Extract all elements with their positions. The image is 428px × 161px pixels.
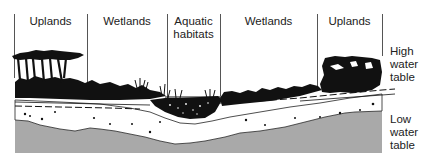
zone-label-aquatic-line2: habitats xyxy=(167,28,220,41)
zone-label-aquatic-line1: Aquatic xyxy=(167,15,220,28)
zone-label-uplands-right: Uplands xyxy=(317,15,382,28)
high-label-line1: High xyxy=(390,45,418,58)
zone-label-uplands-left: Uplands xyxy=(14,15,87,28)
low-water-table-label: Low water table xyxy=(390,113,418,152)
high-label-line2: water xyxy=(390,58,418,71)
low-label-line2: water xyxy=(390,126,418,139)
zone-label-aquatic-habitats: Aquatic habitats xyxy=(167,15,220,41)
zone-label-wetlands-right: Wetlands xyxy=(220,15,317,28)
tree-canopy-left xyxy=(12,50,84,60)
high-label-line3: table xyxy=(390,71,418,84)
low-label-line3: table xyxy=(390,139,418,152)
aquatic-basin xyxy=(150,96,222,119)
high-water-table-label: High water table xyxy=(390,45,418,84)
tree-canopy-right xyxy=(320,56,382,93)
vegetation-right xyxy=(220,84,322,106)
zone-label-wetlands-left: Wetlands xyxy=(87,15,167,28)
low-label-line1: Low xyxy=(390,113,418,126)
